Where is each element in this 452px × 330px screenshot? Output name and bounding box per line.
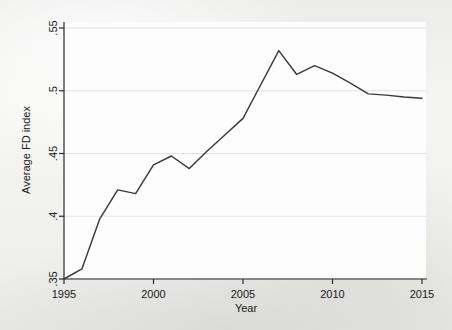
y-axis-ticks: .35.4.45.5.55 [47,20,64,286]
y-tick-label: .45 [47,146,59,161]
x-tick-label: 2000 [141,288,165,300]
chart-figure: .35.4.45.5.55 19952000200520102015 Avera… [0,0,452,330]
y-axis-title: Average FD index [20,106,32,194]
x-axis-title: Year [235,302,258,314]
x-tick-label: 2005 [231,288,255,300]
y-tick-label: .5 [47,86,59,95]
y-tick-label: .4 [47,212,59,221]
y-tick-label: .55 [47,20,59,35]
x-axis-ticks: 19952000200520102015 [52,279,434,300]
x-tick-label: 2015 [410,288,434,300]
line-chart: .35.4.45.5.55 19952000200520102015 Avera… [0,0,452,330]
x-tick-label: 1995 [52,288,76,300]
x-tick-label: 2010 [320,288,344,300]
y-tick-label: .35 [47,271,59,286]
plot-area-background [64,22,426,278]
